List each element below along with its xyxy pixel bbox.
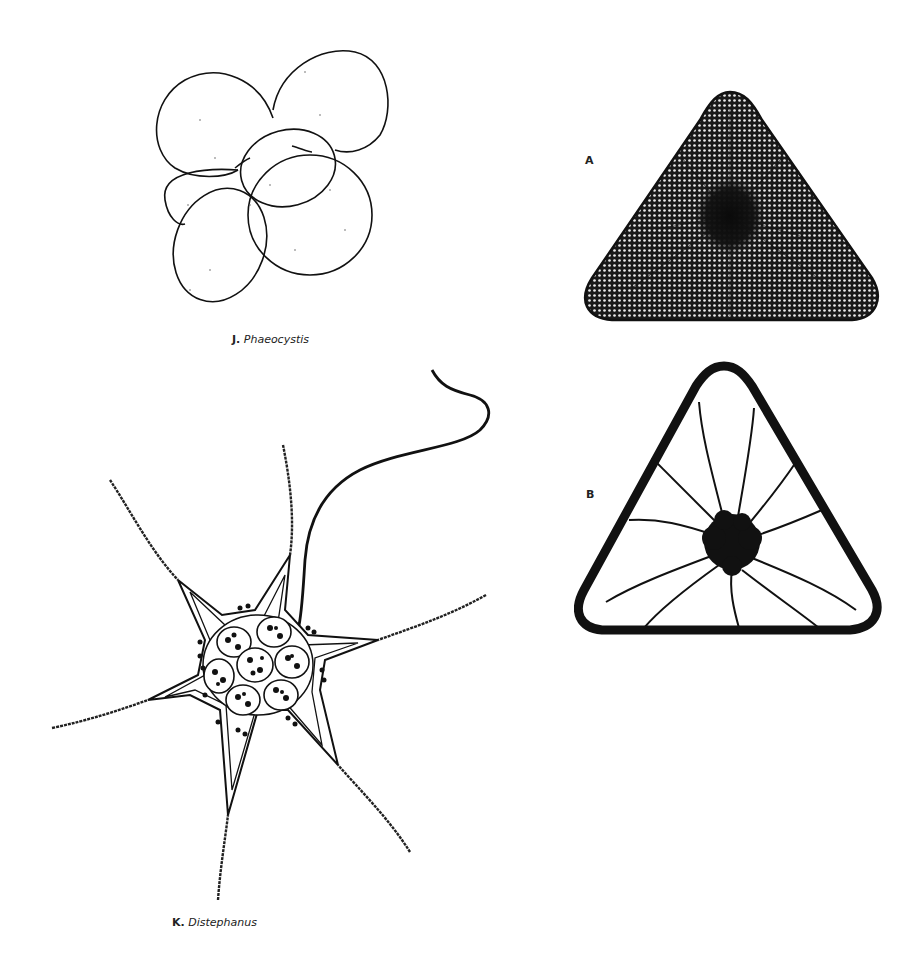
caption-letter: J. xyxy=(232,333,240,346)
figure-phaeocystis xyxy=(140,40,440,320)
caption-genus: Phaeocystis xyxy=(244,333,309,346)
caption-phaeocystis: J. Phaeocystis xyxy=(232,333,309,346)
flagellum xyxy=(298,370,489,630)
phaeocystis-drawing xyxy=(140,40,440,320)
diatom-b-drawing xyxy=(574,360,892,642)
figure-diatom-valve-a xyxy=(572,88,892,328)
distephanus-drawing xyxy=(40,360,540,900)
caption-letter: K. xyxy=(172,916,185,929)
caption-distephanus: K. Distephanus xyxy=(172,916,257,929)
caption-genus: Distephanus xyxy=(188,916,257,929)
figure-distephanus xyxy=(40,360,540,900)
figure-diatom-valve-b xyxy=(574,360,892,642)
diatom-a-drawing xyxy=(572,88,892,328)
